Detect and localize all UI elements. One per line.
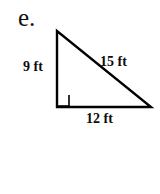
side-label-leg-horizontal: 12 ft: [86, 112, 113, 126]
side-label-leg-vertical: 9 ft: [23, 60, 43, 74]
triangle-outline: [57, 31, 151, 107]
triangle-drawing: [0, 0, 160, 194]
side-label-hypotenuse: 15 ft: [100, 55, 127, 69]
right-angle-marker-icon: [58, 95, 69, 106]
math-figure-right-triangle: e. 9 ft 15 ft 12 ft: [0, 0, 160, 194]
